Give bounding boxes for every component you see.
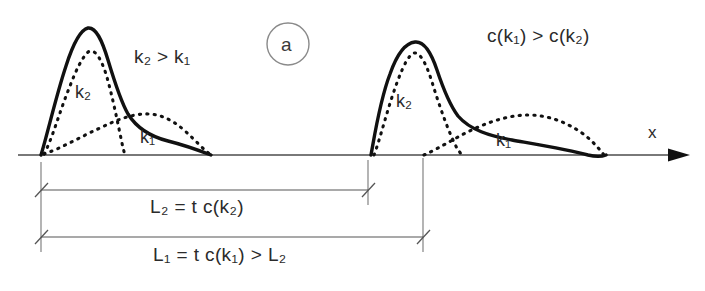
figure-canvas bbox=[0, 0, 705, 291]
dispersion-figure: k₂ > k₁ c(k₁) > c(k₂) a k₂ k₁ k₂ k₁ L₂ =… bbox=[0, 0, 705, 291]
dimension-label-l1: L₁ = t c(k₁) > L₂ bbox=[153, 245, 287, 264]
peak-right-k2-label: k₂ bbox=[396, 92, 412, 110]
peak-left-k1-label: k₁ bbox=[140, 128, 155, 146]
peak-left-k2-label: k₂ bbox=[75, 83, 91, 101]
dimension-label-l2: L₂ = t c(k₂) bbox=[150, 197, 244, 216]
x-axis-label: x bbox=[648, 124, 657, 141]
peak-left-k1-component bbox=[44, 114, 211, 155]
annotation-left-condition: k₂ > k₁ bbox=[134, 47, 191, 66]
peak-right-k1-component bbox=[424, 115, 604, 155]
panel-label: a bbox=[281, 35, 292, 54]
peak-right-k1-label: k₁ bbox=[496, 131, 511, 149]
annotation-right-condition: c(k₁) > c(k₂) bbox=[487, 26, 590, 45]
x-axis-arrowhead bbox=[668, 149, 690, 162]
